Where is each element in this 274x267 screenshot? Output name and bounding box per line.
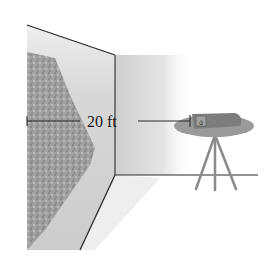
projector-diagram: ა 20 ft	[0, 0, 274, 267]
tripod	[196, 135, 236, 190]
distance-label: 20 ft	[87, 113, 117, 130]
back-wall	[115, 55, 195, 175]
svg-text:ა: ა	[199, 118, 203, 127]
